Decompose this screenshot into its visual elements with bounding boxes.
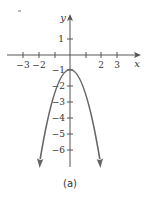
curve-arrow-left-icon: [37, 159, 43, 169]
x-tick-label: 2: [98, 60, 104, 70]
figure-caption: (a): [63, 178, 77, 189]
parabola-chart: −3 −2 2 3 x 1 −1 −2 −3 −4 −5 −6 y (a): [0, 0, 149, 197]
x-tick-label: 3: [114, 60, 120, 70]
y-tick-label: −6: [52, 145, 66, 155]
y-tick-label: −4: [52, 113, 66, 123]
y-tick-label: −5: [52, 129, 66, 139]
x-tick-label: −2: [32, 60, 45, 70]
x-axis-label: x: [134, 58, 140, 69]
x-tick-label: −3: [16, 60, 30, 70]
y-tick-label: 1: [58, 34, 64, 44]
y-axis: 1 −1 −2 −3 −4 −5 −6 y: [52, 12, 73, 167]
y-axis-label: y: [59, 12, 66, 23]
x-axis: −3 −2 2 3 x: [7, 52, 141, 70]
curve-arrow-right-icon: [97, 159, 103, 169]
